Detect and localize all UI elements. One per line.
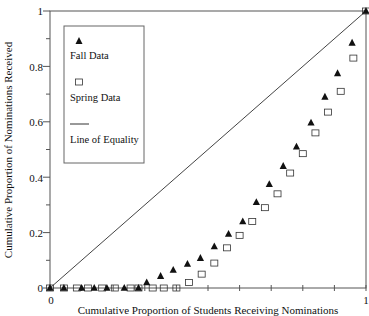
fall-data-point [321, 93, 328, 100]
spring-data-point [274, 191, 281, 197]
spring-data-point [337, 88, 344, 94]
spring-data-point [350, 55, 357, 61]
spring-data-point [223, 245, 230, 251]
y-tick-label-1: 1 [38, 5, 44, 17]
spring-data-point [261, 205, 268, 211]
fall-data-point [253, 198, 260, 205]
spring-data-point [312, 130, 319, 136]
y-tick-label-0.2: 0.2 [29, 227, 43, 239]
lorenz-chart: 0 0.2 0.4 0.6 0.8 1 0 1 Cumulative Propo… [0, 0, 369, 316]
fall-data-point [211, 242, 218, 249]
spring-data-point [287, 170, 294, 176]
fall-data-point [293, 143, 300, 150]
y-axis-title: Cumulative Proportion of Nominations Rec… [2, 41, 14, 258]
spring-data-point [198, 271, 205, 277]
legend: Fall Data Spring Data Line of Equality [64, 26, 144, 163]
spring-data-point [186, 279, 193, 285]
fall-data-point [280, 162, 287, 169]
fall-data-point [143, 278, 150, 285]
legend-label-fall: Fall Data [70, 50, 109, 61]
fall-data-point [157, 272, 164, 279]
fall-data-point [239, 218, 246, 225]
fall-data-point [266, 180, 273, 187]
y-axis-ticks [43, 11, 50, 288]
legend-label-spring: Spring Data [70, 92, 121, 103]
fall-data-point [197, 254, 204, 261]
fall-data-point [334, 69, 341, 76]
y-tick-label-0.8: 0.8 [29, 61, 43, 73]
spring-data-point [299, 151, 306, 157]
y-tick-label-0: 0 [38, 282, 44, 294]
fall-data-point [348, 39, 355, 46]
y-tick-label-0.4: 0.4 [29, 172, 43, 184]
x-tick-label-1: 1 [363, 294, 369, 306]
open-square-icon [76, 79, 83, 85]
spring-data-point [249, 219, 256, 225]
legend-label-equality: Line of Equality [70, 134, 140, 145]
fall-data-point [307, 119, 314, 126]
fall-data-point [184, 260, 191, 267]
x-tick-label-0: 0 [48, 294, 54, 306]
y-tick-label-0.6: 0.6 [29, 116, 43, 128]
x-axis-title: Cumulative Proportion of Students Receiv… [78, 304, 339, 316]
spring-data-point [211, 260, 218, 266]
fall-data-point [225, 230, 232, 237]
spring-data-point [325, 109, 332, 115]
spring-data-point [236, 232, 243, 238]
fall-data-point [170, 266, 177, 273]
